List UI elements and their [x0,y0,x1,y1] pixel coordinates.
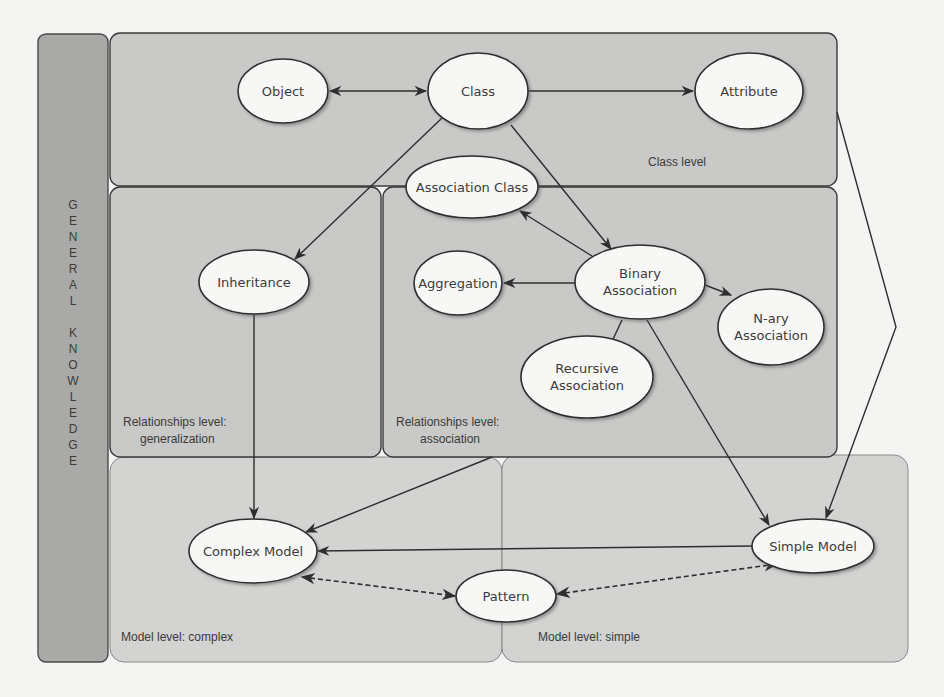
sidebar-letter: R [69,262,78,276]
node-inheritance[interactable]: Inheritance [199,250,309,314]
node-class[interactable]: Class [428,53,528,129]
relationships-generalization-label-line2: generalization [140,432,215,446]
sidebar-letter: E [69,406,77,420]
sidebar-letter: L [70,390,77,404]
node-object[interactable]: Object [238,59,328,123]
node-label: Association Class [416,180,529,195]
node-label-line1: Binary [619,266,661,281]
node-label: Simple Model [769,539,857,554]
node-label: Pattern [483,589,530,604]
node-label: Aggregation [418,276,498,291]
node-label-line2: Association [550,378,624,393]
node-nary-association[interactable]: N-ary Association [718,289,824,365]
sidebar-letter: G [68,438,77,452]
node-label-line1: Recursive [555,361,618,376]
sidebar-letter: K [69,326,77,340]
sidebar-letter: N [69,342,78,356]
relationships-association-label-line1: Relationships level: [396,415,499,429]
node-label-line2: Association [734,328,808,343]
model-level-complex-label: Model level: complex [121,630,233,644]
node-association-class[interactable]: Association Class [406,156,538,218]
relationships-association-label-line2: association [420,432,480,446]
node-binary-association[interactable]: Binary Association [575,245,705,319]
node-label: Object [262,84,304,99]
relationships-generalization-label-line1: Relationships level: [123,415,226,429]
general-knowledge-sidebar: G E N E R A L K N O W L E D G E [38,34,108,662]
sidebar-letter: N [69,230,78,244]
node-label-line2: Association [603,283,677,298]
node-label: Complex Model [203,544,303,559]
node-label: Inheritance [217,275,291,290]
node-label: Class [461,84,495,99]
sidebar-letter: L [70,294,77,308]
sidebar-letter: D [69,422,78,436]
sidebar-letter: E [69,214,77,228]
class-level-label: Class level [648,155,706,169]
sidebar-letter: E [69,454,77,468]
sidebar-letter: A [69,278,77,292]
knowledge-diagram: G E N E R A L K N O W L E D G E Class [0,0,944,697]
sidebar-letter: W [67,374,79,388]
sidebar-letter: O [68,358,77,372]
node-recursive-association[interactable]: Association Recursive [521,336,653,418]
sidebar-letter: E [69,246,77,260]
node-complex-model[interactable]: Complex Model [189,519,317,583]
node-pattern[interactable]: Pattern [456,570,556,622]
node-aggregation[interactable]: Aggregation [414,251,502,315]
model-level-simple-label: Model level: simple [538,630,640,644]
node-label: Attribute [720,84,777,99]
node-label-line1: N-ary [753,311,789,326]
node-attribute[interactable]: Attribute [695,53,803,129]
sidebar-letter: G [68,198,77,212]
node-simple-model[interactable]: Simple Model [752,519,874,573]
